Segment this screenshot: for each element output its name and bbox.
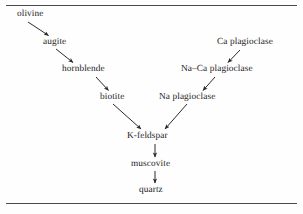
- edge-biotite-kfeldspar: [113, 104, 141, 129]
- arrow-layer: [0, 0, 303, 214]
- edge-ca-naca-plagioclase: [228, 50, 240, 63]
- node-na-plagioclase: Na plagioclase: [159, 92, 215, 103]
- node-ca-plagioclase: Ca plagioclase: [217, 37, 273, 48]
- node-augite: augite: [43, 37, 66, 48]
- node-quartz: quartz: [139, 185, 163, 196]
- bottom-rule: [6, 203, 297, 204]
- node-k-feldspar: K-feldspar: [127, 131, 168, 142]
- edge-hornblende-biotite: [96, 77, 109, 91]
- node-biotite: biotite: [100, 92, 124, 103]
- edge-na-plagioclase-kfeldspar: [165, 104, 187, 129]
- mineral-sequence-figure: olivine augite hornblende biotite Ca pla…: [0, 0, 303, 214]
- node-olivine: olivine: [17, 9, 44, 20]
- node-hornblende: hornblende: [62, 64, 105, 75]
- edge-naca-na-plagioclase: [203, 77, 215, 91]
- edge-olivine-augite: [28, 22, 49, 36]
- top-rule: [6, 5, 297, 6]
- node-muscovite: muscovite: [131, 159, 170, 170]
- edge-augite-hornblende: [56, 49, 73, 63]
- node-na-ca-plagioclase: Na–Ca plagioclase: [181, 64, 253, 75]
